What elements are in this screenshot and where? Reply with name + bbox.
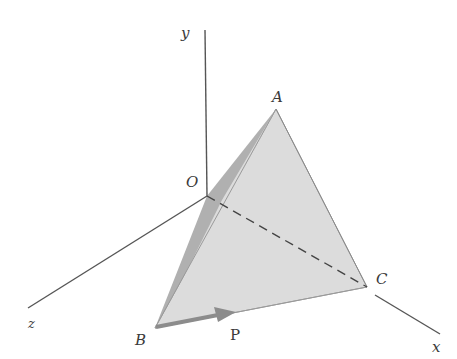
point-a-label: A [272,90,283,105]
point-o-label: O [186,175,198,190]
face-abc [155,109,367,328]
y-axis [205,30,207,196]
y-axis-label: y [181,26,189,41]
tetrahedron-diagram: y x z O A B C P [0,0,457,359]
x-axis [375,295,440,334]
x-axis-label: x [432,340,440,355]
z-axis-label: z [28,317,35,330]
force-p-label: P [230,328,240,343]
point-b-label: B [135,333,146,348]
point-c-label: C [376,272,387,287]
diagram-canvas [0,0,457,359]
